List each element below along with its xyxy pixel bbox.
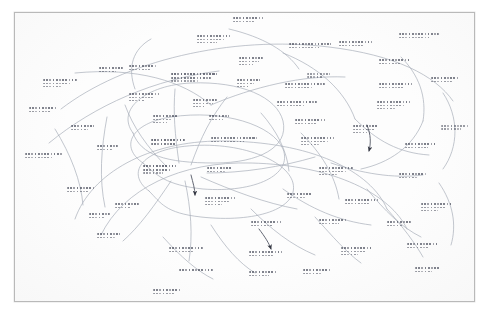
arrowhead-icon: [191, 175, 195, 195]
paper-sheet-frame: [14, 12, 475, 302]
connector-ink-layer: [15, 13, 474, 301]
arrowhead-icon: [259, 229, 271, 249]
arrowhead-icon: [367, 125, 370, 151]
scanned-page: scanned-handwritten-concept-map: [0, 0, 490, 315]
